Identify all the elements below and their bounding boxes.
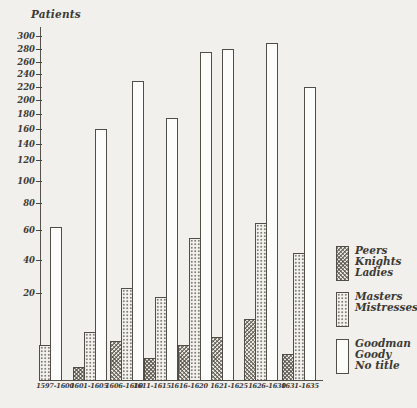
y-tick-label: 220 xyxy=(13,82,35,92)
y-tick-label: 260 xyxy=(13,57,35,67)
y-tick-mark xyxy=(36,144,42,145)
y-tick-label: 240 xyxy=(13,69,35,79)
x-axis-label: 1631-1635 xyxy=(280,382,320,390)
legend-swatch-crosshatch xyxy=(336,246,349,281)
y-tick-mark xyxy=(36,100,42,101)
y-tick-label: 200 xyxy=(13,95,35,105)
y-tick-mark xyxy=(36,49,42,50)
bar-plain-1597-1600 xyxy=(50,227,62,381)
y-tick-mark xyxy=(36,129,42,130)
y-tick-label: 300 xyxy=(13,31,35,41)
y-tick-mark xyxy=(36,36,42,37)
y-tick-label: 120 xyxy=(13,155,35,165)
y-tick-mark xyxy=(36,74,42,75)
y-tick-label: 180 xyxy=(13,109,35,119)
x-axis-label: 1616-1620 xyxy=(169,382,209,390)
y-tick-mark xyxy=(36,293,42,294)
legend-label: Masters Mistresses xyxy=(355,291,417,313)
legend-swatch-stipple xyxy=(336,292,349,327)
bar-plain-1601-1605 xyxy=(95,129,107,381)
bar-plain-1606-1610 xyxy=(132,81,144,382)
x-axis-label: 1621-1625 xyxy=(209,382,249,390)
bar-plain-1621-1625 xyxy=(222,49,234,381)
y-tick-label: 40 xyxy=(13,255,35,265)
bar-plain-1611-1615 xyxy=(166,118,178,381)
y-tick-label: 280 xyxy=(13,44,35,54)
y-tick-label: 60 xyxy=(13,225,35,235)
y-tick-label: 20 xyxy=(13,288,35,298)
y-tick-mark xyxy=(36,181,42,182)
y-axis-line xyxy=(40,27,41,381)
y-tick-mark xyxy=(36,230,42,231)
bar-plain-1631-1635 xyxy=(304,87,316,381)
x-axis-label: 1601-1605 xyxy=(69,382,109,390)
y-tick-mark xyxy=(36,62,42,63)
x-axis-label: 1611-1615 xyxy=(132,382,172,390)
legend-label: Peers Knights Ladies xyxy=(355,245,402,278)
legend-label: Goodman Goody No title xyxy=(355,338,411,371)
y-tick-mark xyxy=(36,87,42,88)
patients-bar-chart: Patients 3002802602402202001801601401201… xyxy=(0,0,417,408)
y-tick-mark xyxy=(36,260,42,261)
y-tick-label: 140 xyxy=(13,139,35,149)
y-tick-mark xyxy=(36,160,42,161)
y-tick-mark xyxy=(36,203,42,204)
bar-plain-1616-1620 xyxy=(200,52,212,381)
chart-title: Patients xyxy=(31,8,81,20)
y-tick-label: 80 xyxy=(13,198,35,208)
bar-plain-1626-1630 xyxy=(266,43,278,382)
y-tick-mark xyxy=(36,114,42,115)
y-tick-label: 100 xyxy=(13,176,35,186)
legend-swatch-plain xyxy=(336,339,349,374)
y-tick-label: 160 xyxy=(13,124,35,134)
